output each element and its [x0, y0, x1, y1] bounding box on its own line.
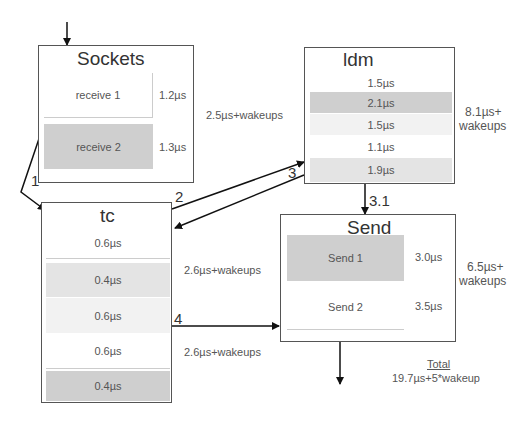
send-2-time: 3.5µs: [415, 300, 442, 312]
ldm-total-line1: 8.1µs+: [465, 105, 502, 119]
total-heading: Total: [427, 358, 450, 370]
tc-row: 0.6µs: [46, 298, 170, 333]
ldm-box: ldm 1.5µs 2.1µs 1.5µs 1.1µs 1.9µs: [304, 47, 455, 184]
step-2-label: 2: [175, 188, 183, 205]
ldm-row: 1.5µs: [310, 114, 452, 135]
step-3-1-label: 3.1: [369, 192, 390, 209]
sockets-total: 2.5µs+wakeups: [206, 109, 283, 121]
step-3-label: 3: [288, 164, 296, 181]
tc-total-a: 2.6µs+wakeups: [184, 264, 261, 276]
tc-row: 0.6µs: [46, 227, 170, 259]
ldm-row: 1.1µs: [310, 136, 452, 157]
receive-2-block: receive 2: [44, 124, 153, 169]
receive-1-time: 1.2µs: [159, 89, 186, 101]
send-1-time: 3.0µs: [415, 251, 442, 263]
sockets-box: Sockets receive 1 receive 2 1.2µs 1.3µs: [38, 45, 194, 183]
sockets-title: Sockets: [77, 48, 145, 70]
ldm-title: ldm: [343, 49, 374, 71]
ldm-row: 2.1µs: [310, 92, 452, 113]
tc-box: tc 0.6µs 0.4µs 0.6µs 0.6µs 0.4µs: [41, 202, 172, 403]
ldm-row: 1.5µs: [310, 72, 452, 93]
tc-title: tc: [100, 205, 115, 227]
step-1-label: 1: [31, 172, 39, 189]
tc-row: 0.4µs: [46, 263, 170, 297]
send-total-line1: 6.5µs+: [467, 260, 504, 274]
ldm-row: 1.9µs: [310, 158, 452, 182]
receive-2-time: 1.3µs: [159, 141, 186, 153]
tc-row: 0.4µs: [46, 371, 170, 401]
total-value: 19.7µs+5*wakeup: [392, 372, 480, 384]
tc-row: 0.6µs: [46, 334, 170, 369]
receive-1-block: receive 1: [44, 73, 153, 118]
send-total-line2: wakeups: [459, 274, 506, 288]
send-box: Send Send 1 Send 2 3.0µs 3.5µs: [280, 214, 456, 342]
ldm-total-line2: wakeups: [459, 119, 506, 133]
step-4-label: 4: [174, 310, 182, 327]
tc-total-b: 2.6µs+wakeups: [184, 346, 261, 358]
send-2-block: Send 2: [287, 285, 404, 330]
send-1-block: Send 1: [287, 235, 404, 281]
